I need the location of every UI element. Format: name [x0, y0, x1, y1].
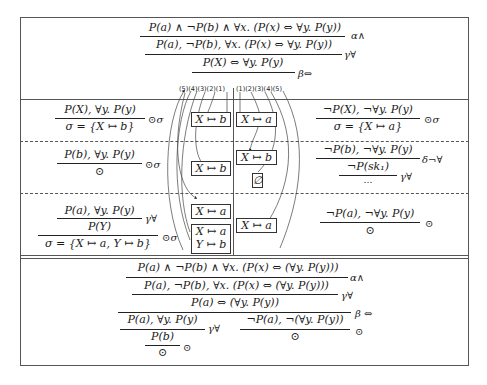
closed-branch-icon: ⊙	[240, 331, 350, 343]
bottom-formula-2: P(a), ¬P(b), ∀x. (P(x) ⇔ (∀y. P(y)))	[134, 280, 339, 292]
substitution-entry: Y ↦ b	[192, 238, 230, 251]
formula: P(a), ∀y. P(y)	[120, 314, 205, 326]
substitution-box: X ↦ b	[191, 161, 231, 176]
formula: ¬P(a), ¬(∀y. P(y))	[240, 314, 350, 326]
inference-rule-line	[132, 294, 338, 295]
closure-rule-label: ⊙	[355, 326, 363, 337]
substitution-box: X ↦ b	[236, 150, 277, 165]
substitution-box: X ↦ b	[191, 112, 231, 127]
bottom-formula-3: P(a) ⇔ (∀y. P(y))	[170, 297, 300, 309]
closed-branch-icon: ⊙	[145, 347, 180, 359]
bottom-formula-1: P(a) ∧ ¬P(b) ∧ ∀x. (P(x) ⇔ (∀y. P(y)))	[128, 262, 348, 274]
substitution-arrows	[0, 0, 487, 385]
rule-label-alpha: α∧	[350, 272, 364, 283]
inference-rule-line	[126, 277, 348, 278]
substitution-box: X ↦ a	[191, 204, 231, 219]
empty-set-box: ∅	[252, 173, 263, 188]
rule-label-gamma: γ∀	[208, 323, 220, 334]
substitution-entry: X ↦ a	[192, 225, 230, 238]
substitution-box-multi: X ↦ a Y ↦ b	[191, 224, 231, 254]
rule-label-gamma: γ∀	[341, 290, 353, 301]
substitution-box: X ↦ a	[236, 112, 277, 127]
formula: P(b)	[145, 331, 180, 343]
closure-rule-label: ⊙	[183, 342, 191, 353]
rule-label-beta: β ⇔	[355, 308, 372, 319]
substitution-box: X ↦ a	[236, 218, 277, 233]
